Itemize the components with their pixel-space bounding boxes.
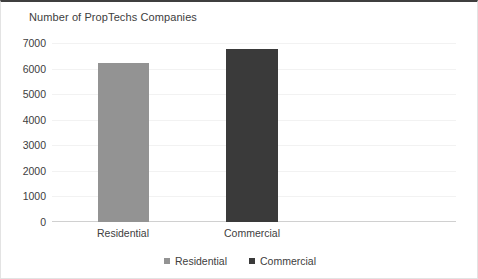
y-axis: 7000 6000 5000 4000 3000 2000 1000 0 [1, 43, 46, 222]
y-axis-tick-label: 4000 [23, 114, 46, 126]
legend-swatch-icon [249, 258, 255, 264]
chart-title: Number of PropTechs Companies [29, 11, 197, 23]
bar-commercial[interactable] [226, 49, 278, 222]
chart-legend: Residential Commercial [1, 255, 478, 267]
x-axis-tick-label-commercial: Commercial [224, 227, 280, 239]
y-axis-tick-label: 2000 [23, 165, 46, 177]
y-axis-tick-label: 1000 [23, 190, 46, 202]
bar-residential[interactable] [98, 63, 149, 222]
y-axis-tick-label: 0 [40, 216, 46, 228]
y-axis-tick-label: 3000 [23, 139, 46, 151]
legend-entry-commercial[interactable]: Commercial [249, 255, 316, 267]
y-axis-tick-label: 7000 [23, 37, 46, 49]
legend-entry-residential[interactable]: Residential [164, 255, 227, 267]
x-axis-tick-label-residential: Residential [97, 227, 149, 239]
chart-container: Number of PropTechs Companies 7000 6000 … [0, 0, 478, 279]
legend-swatch-icon [164, 258, 170, 264]
y-axis-tick-label: 5000 [23, 88, 46, 100]
legend-label: Commercial [260, 255, 316, 267]
y-axis-tick-label: 6000 [23, 63, 46, 75]
x-axis: Residential Commercial [52, 227, 456, 245]
gridline [52, 43, 456, 44]
legend-label: Residential [175, 255, 227, 267]
plot-area [52, 43, 456, 222]
